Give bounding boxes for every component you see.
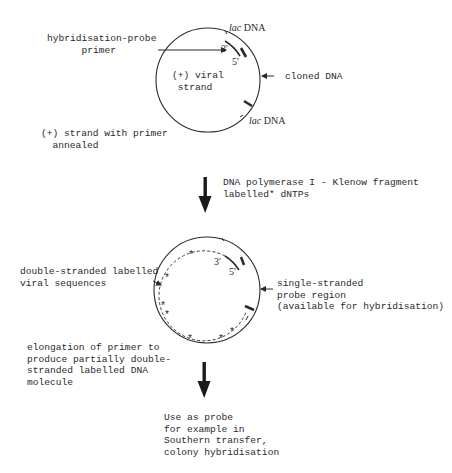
process-arrow-2-icon: [198, 362, 211, 398]
five-prime-label: 5': [232, 56, 239, 68]
svg-text:*: *: [188, 250, 194, 261]
svg-text:*: *: [187, 334, 193, 345]
five-prime-label-2: 5': [229, 266, 236, 278]
svg-text:*: *: [229, 327, 235, 338]
lac-dna-bottom-label: lac DNA: [249, 115, 285, 127]
lac-dna-top-label: lac DNA: [229, 22, 265, 34]
elongation-caption: elongation of primer to produce partiall…: [27, 342, 171, 388]
primer-label: hybridisation-probe primer: [47, 33, 156, 56]
diagram-graphics: * * * * * * *: [0, 0, 452, 473]
label-asterisk-icons: * * * * * * *: [160, 250, 235, 345]
insert-boundary-bottom: [244, 101, 252, 106]
use-as-probe-label: Use as probe for example in Southern tra…: [164, 412, 279, 458]
step1-caption: (+) strand with primer annealed: [41, 128, 168, 151]
svg-text:*: *: [164, 273, 170, 284]
cloned-dna-label: cloned DNA: [285, 71, 343, 83]
insert-boundary-top: [241, 48, 246, 57]
single-stranded-label: single-stranded probe region (available …: [277, 278, 444, 313]
double-stranded-label: double-stranded labelled viral sequences: [20, 266, 158, 289]
three-prime-label: 3': [221, 43, 228, 55]
reagent-label: DNA polymerase I - Klenow fragment label…: [223, 177, 419, 200]
svg-text:*: *: [218, 334, 224, 345]
viral-strand-label: (+) viral strand: [172, 70, 224, 93]
three-prime-label-2: 3': [214, 256, 221, 268]
svg-text:*: *: [164, 310, 170, 321]
process-arrow-1-icon: [199, 177, 212, 213]
double-stranded-circle: [153, 237, 273, 343]
